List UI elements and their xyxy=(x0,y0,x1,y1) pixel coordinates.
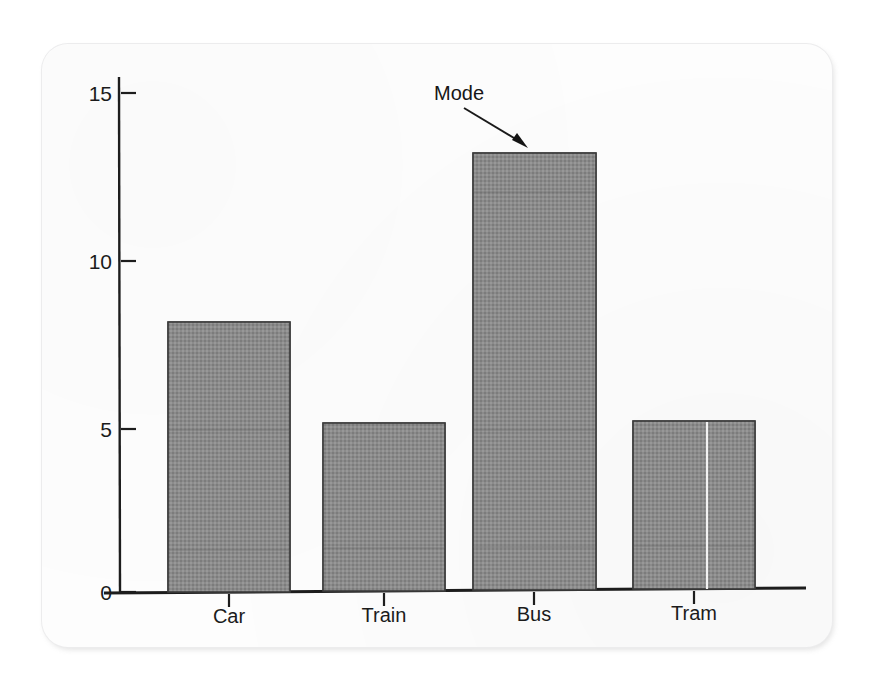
annotation-arrow-head xyxy=(512,133,528,148)
bar-car[interactable] xyxy=(168,322,290,592)
x-label-car: Car xyxy=(213,605,246,627)
y-tick-label-10: 10 xyxy=(89,250,112,273)
bar-bus[interactable] xyxy=(473,153,596,590)
annotation-arrow-line xyxy=(464,108,519,141)
x-label-tram: Tram xyxy=(671,602,717,624)
mode-annotation: Mode xyxy=(434,82,528,148)
y-tick-label-15: 15 xyxy=(89,82,112,105)
x-label-train: Train xyxy=(362,604,407,626)
y-tick-label-5: 5 xyxy=(100,418,112,441)
bar-chart-figure: 15 10 5 0 xyxy=(0,0,887,686)
x-axis-labels: Car Train Bus Tram xyxy=(213,602,717,627)
bar-group xyxy=(168,153,755,592)
page-background: 15 10 5 0 xyxy=(0,0,887,686)
y-axis: 15 10 5 0 xyxy=(89,77,136,604)
bar-train[interactable] xyxy=(323,423,445,591)
chart-svg: 15 10 5 0 xyxy=(0,0,887,686)
bar-tram[interactable] xyxy=(633,421,755,589)
annotation-label-mode: Mode xyxy=(434,82,484,104)
x-label-bus: Bus xyxy=(517,603,551,625)
